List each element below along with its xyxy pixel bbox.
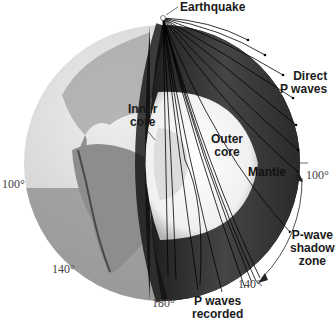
label-shadow-zone: P-wave shadow zone xyxy=(290,229,335,268)
label-direct-line2: P waves xyxy=(280,83,327,96)
label-outer-line2: core xyxy=(211,146,243,159)
angle-right-140: 140° xyxy=(238,277,261,292)
earthquake-focus xyxy=(161,16,166,21)
label-inner-line2: core xyxy=(128,116,157,129)
label-shadow-line3: zone xyxy=(290,255,335,268)
label-outer-core: Outer core xyxy=(211,133,243,159)
label-recorded-line2: recorded xyxy=(192,308,243,321)
label-p-waves-recorded: P waves recorded xyxy=(192,295,243,321)
label-mantle: Mantle xyxy=(248,166,286,179)
angle-left-100: 100° xyxy=(2,177,25,192)
angle-left-140: 140° xyxy=(52,262,75,277)
angle-bottom-180: 180° xyxy=(152,296,175,311)
angle-right-100: 100° xyxy=(306,168,329,183)
label-direct-p-waves: Direct P waves xyxy=(280,70,327,96)
label-inner-core: Inner core xyxy=(128,103,157,129)
label-earthquake: Earthquake xyxy=(180,1,245,14)
